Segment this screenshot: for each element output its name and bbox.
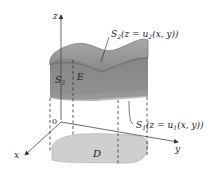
x-axis-label: x	[14, 150, 19, 160]
D-label: D	[92, 148, 101, 159]
origin-label: 0	[52, 117, 57, 126]
S1-label: S1(z = u1(x, y))	[136, 120, 204, 131]
y-axis-label: y	[174, 144, 181, 154]
E-label: E	[76, 72, 84, 82]
z-axis-label: z	[52, 11, 58, 21]
S2-label: S2(z = u2(x, y))	[111, 29, 179, 40]
solid-region-diagram: z x y 0 E D S3 S2(z = u2(x, y)) S1(z = u…	[0, 0, 212, 185]
S1-leader	[129, 101, 133, 124]
